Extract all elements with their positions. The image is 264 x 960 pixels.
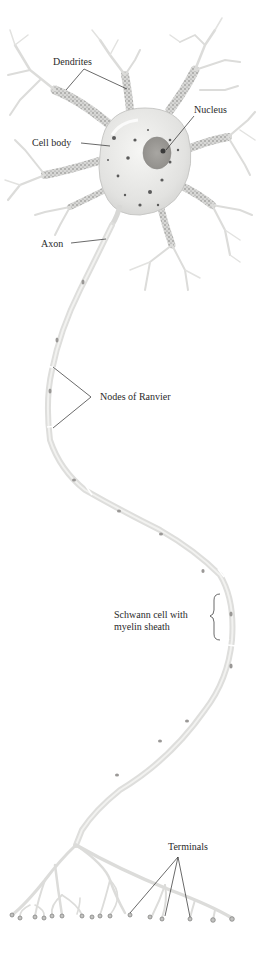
neuron-diagram: Dendrites Nucleus Cell body Axon Nodes o…	[0, 0, 264, 960]
label-cell-body: Cell body	[32, 137, 71, 148]
label-axon: Axon	[41, 238, 63, 249]
label-dendrites: Dendrites	[53, 56, 92, 67]
nucleus	[143, 137, 171, 169]
label-schwann-cell-line2: myelin sheath	[114, 621, 170, 632]
label-nucleus: Nucleus	[194, 104, 227, 115]
label-nodes-of-ranvier: Nodes of Ranvier	[100, 391, 171, 402]
axon	[46, 205, 236, 845]
axon-terminals	[12, 845, 232, 920]
label-terminals: Terminals	[168, 841, 208, 852]
label-schwann-cell-line1: Schwann cell with	[114, 609, 188, 620]
